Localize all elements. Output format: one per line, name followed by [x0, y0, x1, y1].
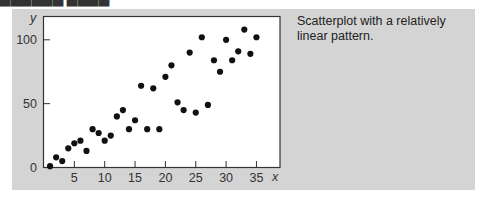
data-point — [235, 48, 241, 54]
data-point — [53, 154, 59, 160]
data-point — [241, 26, 247, 32]
data-point — [77, 138, 83, 144]
plot-area — [44, 17, 281, 168]
x-tick-label: 5 — [71, 171, 78, 185]
data-point — [205, 102, 211, 108]
data-point — [102, 138, 108, 144]
x-tick-label: 30 — [219, 171, 233, 185]
data-point — [83, 148, 89, 154]
data-point — [59, 158, 65, 164]
x-tick-label: 20 — [158, 171, 172, 185]
data-point — [156, 126, 162, 132]
data-point — [162, 74, 168, 80]
data-point — [126, 126, 132, 132]
data-point — [96, 130, 102, 136]
data-point — [181, 107, 187, 113]
data-point — [187, 49, 193, 55]
figure-caption: Scatterplot with a relatively linear pat… — [297, 14, 472, 44]
data-point — [150, 85, 156, 91]
y-tick-label: 100 — [16, 33, 37, 47]
data-point — [65, 145, 71, 151]
x-tick-label: 25 — [189, 171, 203, 185]
data-point — [47, 163, 53, 169]
data-point — [211, 57, 217, 63]
data-point — [223, 37, 229, 43]
data-point — [138, 83, 144, 89]
data-point — [253, 34, 259, 40]
data-point — [193, 109, 199, 115]
x-tick-label: 15 — [128, 171, 142, 185]
y-axis-label: y — [29, 11, 37, 25]
data-point — [144, 126, 150, 132]
data-point — [89, 126, 95, 132]
data-point — [108, 132, 114, 138]
data-point — [120, 107, 126, 113]
x-axis-label: x — [271, 170, 279, 184]
data-point — [199, 34, 205, 40]
data-point — [168, 62, 174, 68]
data-point — [229, 57, 235, 63]
x-tick-label: 10 — [98, 171, 112, 185]
y-tick-label: 0 — [30, 161, 37, 175]
data-point — [247, 51, 253, 57]
data-point — [71, 140, 77, 146]
data-point — [114, 113, 120, 119]
data-point — [217, 69, 223, 75]
data-point — [132, 117, 138, 123]
data-point — [174, 99, 180, 105]
x-tick-label: 35 — [249, 171, 263, 185]
y-tick-label: 50 — [23, 97, 37, 111]
